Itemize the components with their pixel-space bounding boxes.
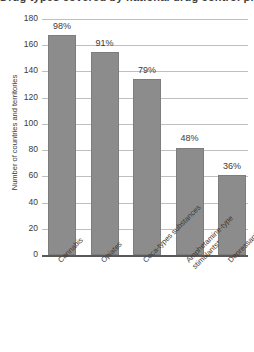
y-tick-label: 0	[2, 250, 38, 259]
y-tick-label: 180	[2, 14, 38, 23]
y-tick-label: 160	[2, 40, 38, 49]
bar[interactable]	[48, 35, 76, 255]
y-axis-tick-labels: 180160140120100806040200	[0, 19, 38, 255]
chart-title: Drug types covered by national drug cont…	[0, 0, 254, 3]
bar-value-label: 98%	[39, 22, 85, 31]
y-tick-label: 120	[2, 93, 38, 102]
y-tick-label: 100	[2, 119, 38, 128]
y-tick-label: 20	[2, 224, 38, 233]
bar-value-label: 48%	[167, 134, 213, 143]
bar-value-label: 91%	[82, 39, 128, 48]
gridline	[42, 19, 248, 20]
bar-value-label: 79%	[124, 66, 170, 75]
bar-chart: Drug types covered by national drug cont…	[0, 0, 254, 352]
y-tick-label: 80	[2, 145, 38, 154]
y-tick-label: 140	[2, 66, 38, 75]
y-tick-label: 60	[2, 171, 38, 180]
y-tick-label: 40	[2, 198, 38, 207]
bar-value-label: 36%	[209, 162, 254, 171]
x-axis-category-labels: CannabisOpiatesCoca-types substancesAmph…	[42, 258, 248, 352]
